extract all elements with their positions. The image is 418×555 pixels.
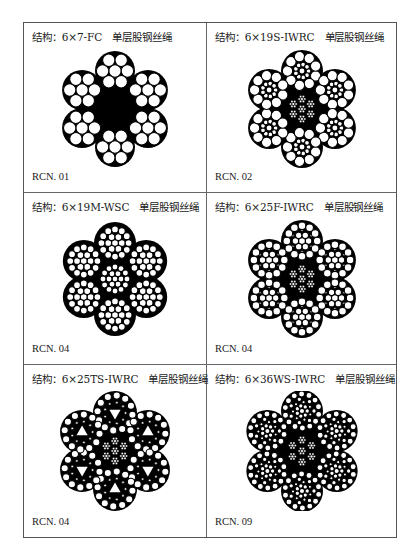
- rope-type: 单层股钢丝绳: [325, 31, 384, 43]
- structure-code: 6×7-FC: [62, 31, 102, 43]
- rope-cell-6x25ts-iwrc: 结构：6×25TS-IWRC单层股钢丝绳 RCN. 04: [24, 365, 207, 537]
- catalog-code: RCN. 09: [215, 516, 252, 527]
- rope-title: 结构：6×36WS-IWRC单层股钢丝绳: [215, 371, 395, 386]
- structure-code: 6×19S-IWRC: [245, 31, 315, 43]
- rope-cross-section-diagram: [55, 49, 175, 169]
- rope-type: 单层股钢丝绳: [148, 373, 207, 385]
- label-prefix: 结构：: [32, 373, 62, 385]
- rope-cross-section-diagram: [55, 391, 175, 511]
- label-prefix: 结构：: [215, 31, 245, 43]
- structure-code: 6×19M-WSC: [62, 201, 130, 213]
- structure-code: 6×25TS-IWRC: [62, 373, 139, 385]
- rope-type: 单层股钢丝绳: [324, 201, 383, 213]
- rope-type: 单层股钢丝绳: [335, 373, 394, 385]
- label-prefix: 结构：: [215, 373, 245, 385]
- label-prefix: 结构：: [215, 201, 245, 213]
- catalog-code: RCN. 04: [215, 343, 252, 354]
- rope-title: 结构：6×19M-WSC单层股钢丝绳: [32, 199, 199, 214]
- rope-cell-6x19m-wsc: 结构：6×19M-WSC单层股钢丝绳 RCN. 04: [24, 193, 207, 365]
- wire-rope-catalog-grid: 结构：6×7-FC单层股钢丝绳 RCN. 01 结构：6×19S-IWRC单层股…: [23, 22, 397, 538]
- rope-title: 结构：6×25F-IWRC单层股钢丝绳: [215, 199, 383, 214]
- structure-code: 6×36WS-IWRC: [245, 373, 326, 385]
- rope-cross-section-diagram: [242, 49, 362, 169]
- catalog-code: RCN. 02: [215, 171, 252, 182]
- rope-cell-6x19s-iwrc: 结构：6×19S-IWRC单层股钢丝绳 RCN. 02: [207, 23, 396, 193]
- label-prefix: 结构：: [32, 201, 62, 213]
- structure-code: 6×25F-IWRC: [245, 201, 314, 213]
- rope-cell-6x36ws-iwrc: 结构：6×36WS-IWRC单层股钢丝绳 RCN. 09: [207, 365, 396, 537]
- catalog-code: RCN. 04: [32, 516, 69, 527]
- rope-cross-section-diagram: [242, 391, 362, 511]
- label-prefix: 结构：: [32, 31, 62, 43]
- rope-title: 结构：6×19S-IWRC单层股钢丝绳: [215, 29, 384, 44]
- rope-cross-section-diagram: [242, 219, 362, 339]
- rope-cell-6x7-fc: 结构：6×7-FC单层股钢丝绳 RCN. 01: [24, 23, 207, 193]
- rope-type: 单层股钢丝绳: [112, 31, 171, 43]
- rope-title: 结构：6×7-FC单层股钢丝绳: [32, 29, 172, 44]
- catalog-code: RCN. 04: [32, 343, 69, 354]
- catalog-code: RCN. 01: [32, 171, 69, 182]
- rope-cell-6x25f-iwrc: 结构：6×25F-IWRC单层股钢丝绳 RCN. 04: [207, 193, 396, 365]
- rope-cross-section-diagram: [55, 219, 175, 339]
- rope-title: 结构：6×25TS-IWRC单层股钢丝绳: [32, 371, 208, 386]
- rope-type: 单层股钢丝绳: [139, 201, 198, 213]
